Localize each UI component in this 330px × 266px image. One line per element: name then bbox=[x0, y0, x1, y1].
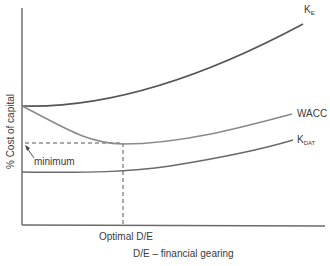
wacc-label: WACC bbox=[297, 109, 327, 119]
chart-canvas bbox=[0, 0, 330, 266]
x-axis bbox=[22, 225, 325, 226]
kdat-label-sub: DAT bbox=[304, 140, 316, 146]
optimal-de-label: Optimal D/E bbox=[99, 232, 153, 242]
minimum-label: minimum bbox=[34, 157, 75, 167]
ke-label-sub: E bbox=[311, 10, 315, 16]
y-axis-label: % Cost of capital bbox=[5, 82, 16, 182]
ke-label: KE bbox=[304, 5, 315, 16]
ke-curve bbox=[22, 24, 303, 106]
minimum-arrow-head bbox=[25, 145, 30, 151]
kdat-label-main: K bbox=[297, 134, 304, 145]
kdat-label: KDAT bbox=[297, 135, 315, 146]
x-axis-label: D/E – financial gearing bbox=[133, 249, 234, 259]
wacc-curve bbox=[22, 106, 292, 144]
ke-label-main: K bbox=[304, 4, 311, 15]
